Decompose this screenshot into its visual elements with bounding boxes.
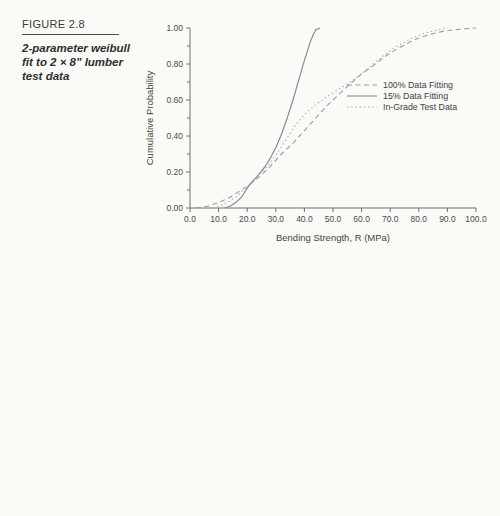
legend-entry: 100% Data Fitting [347,79,457,90]
legend-entry: In-Grade Test Data [347,101,457,112]
caption-line: test data [22,69,144,83]
caption-line: 2-parameter weibull [22,41,144,55]
x-axis-title: Bending Strength, R (MPa) [276,232,390,243]
y-axis-title: Cumulative Probability [144,70,155,165]
x-tick-label: 40.0 [296,214,313,224]
legend-label: 100% Data Fitting [383,80,453,90]
y-tick-label: 0.00 [166,203,183,213]
legend-label: In-Grade Test Data [383,102,457,112]
y-tick-label: 1.00 [166,23,183,33]
x-tick-label: 10.0 [210,214,227,224]
x-tick-label: 60.0 [353,214,370,224]
caption-line: fit to 2 × 8" lumber [22,55,144,69]
figure-2-8-block: FIGURE 2.8 2-parameter weibull fit to 2 … [0,0,500,280]
series-line [224,28,320,208]
figure-caption-text: 2-parameter weibull fit to 2 × 8" lumber… [22,41,144,83]
x-tick-label: 100.0 [465,214,487,224]
x-tick-label: 70.0 [382,214,399,224]
x-tick-label: 80.0 [411,214,428,224]
legend-entry: 15% Data Fitting [347,90,457,101]
x-tick-label: 0.0 [184,214,196,224]
figure-2-8-caption: FIGURE 2.8 2-parameter weibull fit to 2 … [22,18,144,83]
y-tick-label: 0.60 [166,95,183,105]
x-tick-label: 30.0 [268,214,285,224]
y-tick-label: 0.80 [166,59,183,69]
dotted-line-sample-icon [347,104,377,110]
weibull-cdf-chart: 0.010.020.030.040.050.060.070.080.090.01… [140,8,500,266]
y-tick-label: 0.40 [166,131,183,141]
series-line [196,28,476,208]
y-tick-label: 0.20 [166,167,183,177]
solid-line-sample-icon [347,93,377,99]
figure-label: FIGURE 2.8 [22,18,144,30]
x-tick-label: 20.0 [239,214,256,224]
x-tick-label: 90.0 [439,214,456,224]
chart-legend: 100% Data Fitting 15% Data Fitting In-Gr… [347,79,457,112]
series-line [213,28,448,208]
dashed-line-sample-icon [347,82,377,88]
legend-label: 15% Data Fitting [383,91,448,101]
caption-rule [22,34,119,35]
figure-2-9-block: FIGURE 2.9 Summary of φ-β relation for f… [0,280,500,516]
x-tick-label: 50.0 [325,214,342,224]
